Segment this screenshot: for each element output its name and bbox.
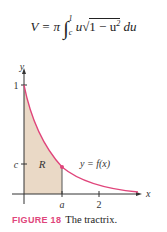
caption-text: The tractrix. [65, 214, 117, 225]
curve-label: y = f(x) [79, 158, 111, 170]
y-tick-label-c: c [14, 159, 19, 170]
point-on-curve [60, 165, 64, 169]
tractrix-diagram: y 1 c R y = f(x) a 2 x [0, 0, 167, 232]
region-label: R [38, 158, 46, 170]
x-tick-label-2: 2 [97, 199, 102, 210]
x-axis-label: x [145, 188, 151, 199]
x-axis-arrow-icon [136, 192, 142, 196]
figure-caption: FIGURE 18The tractrix. [12, 214, 117, 225]
y-axis-label: y [19, 61, 25, 72]
x-tick-label-a: a [60, 199, 65, 210]
y-tick-label-1: 1 [14, 80, 19, 91]
caption-label: FIGURE 18 [12, 215, 61, 225]
